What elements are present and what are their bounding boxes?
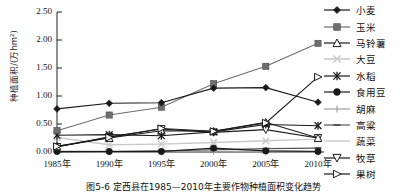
legend-item-label: 胡麻: [352, 102, 376, 116]
dash-icon: [322, 118, 352, 132]
legend-item[interactable]: 高粱: [322, 117, 407, 133]
legend-item-label: 水稻: [352, 69, 376, 83]
plus-icon: [322, 102, 352, 116]
legend-item[interactable]: 胡麻: [322, 100, 407, 116]
legend-item[interactable]: 牧草: [322, 150, 407, 166]
legend-item-label: 大豆: [352, 52, 376, 66]
chart-legend: 小麦玉米马铃薯大豆水稻食用豆胡麻高粱蔬菜牧草果树: [322, 2, 407, 182]
legend-item-label: 蔬菜: [352, 134, 376, 148]
legend-item[interactable]: 水稻: [322, 68, 407, 84]
legend-item-label: 果树: [352, 167, 376, 181]
series-3: [54, 134, 322, 148]
legend-item[interactable]: 小麦: [322, 2, 407, 18]
light-x-icon: [322, 52, 352, 66]
series-1: [54, 40, 321, 134]
filled-square-icon: [322, 20, 352, 34]
series-0: [54, 84, 322, 112]
legend-item[interactable]: 食用豆: [322, 84, 407, 100]
open-triangle-up-icon: [322, 36, 352, 50]
series-5: [54, 145, 321, 155]
legend-item-label: 高粱: [352, 118, 376, 132]
asterisk-icon: [322, 69, 352, 83]
plain-line-icon: [322, 134, 352, 148]
filled-circle-icon: [322, 85, 352, 99]
filled-diamond-icon: [322, 3, 352, 17]
legend-item-label: 玉米: [352, 20, 376, 34]
figure-container: 种植面积/(万hm²) 0.000.501.001.502.002.50 198…: [0, 0, 407, 195]
legend-item-label: 牧草: [352, 151, 376, 165]
legend-item[interactable]: 大豆: [322, 51, 407, 67]
legend-item[interactable]: 玉米: [322, 18, 407, 34]
series-10: [54, 73, 322, 150]
open-triangle-right-icon: [322, 167, 352, 181]
figure-caption: 图5-6 定西县在1985—2010年主要作物种植面积变化趋势: [0, 180, 407, 193]
legend-item-label: 小麦: [352, 3, 376, 17]
legend-item-label: 马铃薯: [352, 36, 386, 50]
legend-item[interactable]: 马铃薯: [322, 35, 407, 51]
legend-item[interactable]: 蔬菜: [322, 133, 407, 149]
open-triangle-down-icon: [322, 151, 352, 165]
legend-item-label: 食用豆: [352, 85, 386, 99]
